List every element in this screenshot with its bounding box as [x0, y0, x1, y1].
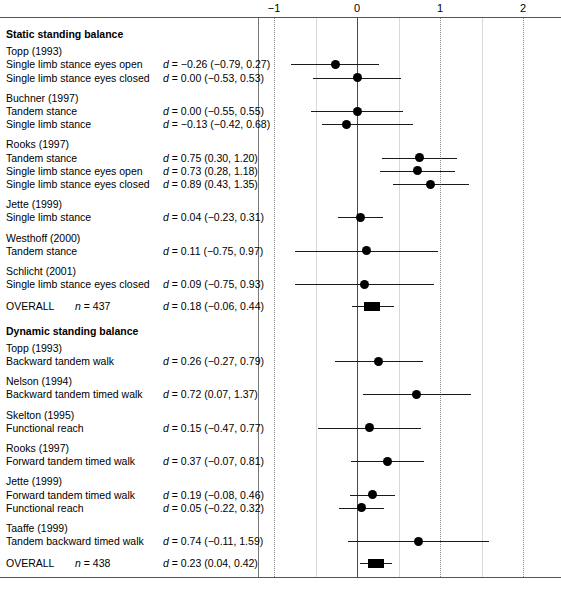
overall-effect-marker [368, 559, 384, 568]
effect-size-text: d = 0.11 (−0.75, 0.97) [163, 245, 263, 257]
stat-symbol: d [163, 165, 169, 177]
outcome-label: Functional reach [6, 422, 84, 434]
effect-size-text: d = 0.75 (0.30, 1.20) [163, 152, 258, 164]
stat-symbol: d [163, 535, 169, 547]
stat-symbol: d [163, 278, 169, 290]
effect-size-marker [368, 490, 377, 499]
bottom-rule [0, 577, 561, 578]
axis-tick-label: 2 [508, 2, 538, 14]
forest-plot: −1012Static standing balanceTopp (1993)S… [0, 0, 561, 591]
effect-size-text: d = 0.19 (−0.08, 0.46) [163, 489, 264, 501]
effect-size-marker [331, 60, 340, 69]
stat-symbol: d [163, 489, 169, 501]
stat-symbol: d [163, 152, 169, 164]
study-citation: Nelson (1994) [6, 375, 72, 387]
stat-symbol: d [163, 72, 169, 84]
overall-effect-text: d = 0.18 (−0.06, 0.44) [163, 300, 264, 312]
axis-tick-label: 1 [425, 2, 455, 14]
effect-size-marker [365, 423, 374, 432]
effect-size-marker [357, 503, 366, 512]
effect-size-text: d = 0.05 (−0.22, 0.32) [163, 502, 264, 514]
outcome-label: Forward tandem timed walk [6, 489, 135, 501]
outcome-label: Single limb stance eyes open [6, 165, 143, 177]
overall-label: OVERALL [6, 300, 54, 312]
stat-symbol: d [163, 245, 169, 257]
effect-size-text: d = 0.04 (−0.23, 0.31) [163, 211, 264, 223]
gridline-minor [482, 18, 483, 577]
stat-symbol: d [163, 58, 169, 70]
outcome-label: Tandem stance [6, 245, 77, 257]
stat-symbol: d [163, 388, 169, 400]
stat-symbol: d [163, 502, 169, 514]
study-citation: Topp (1993) [6, 342, 62, 354]
outcome-label: Single limb stance eyes closed [6, 72, 150, 84]
overall-effect-marker [364, 302, 380, 311]
effect-size-marker [426, 180, 435, 189]
gridline-major [440, 18, 441, 577]
effect-size-text: d = 0.89 (0.43, 1.35) [163, 178, 258, 190]
study-citation: Rooks (1997) [6, 138, 69, 150]
effect-size-text: d = 0.00 (−0.53, 0.53) [163, 72, 264, 84]
effect-size-marker [415, 153, 424, 162]
effect-size-marker [374, 357, 383, 366]
effect-size-marker [353, 107, 362, 116]
zero-reference-line [357, 18, 358, 577]
outcome-label: Single limb stance eyes open [6, 58, 143, 70]
stat-symbol: d [163, 178, 169, 190]
stat-symbol: d [163, 105, 169, 117]
section-heading-1: Dynamic standing balance [6, 325, 138, 337]
overall-n: n = 438 [75, 557, 110, 569]
confidence-interval-line [322, 124, 413, 125]
effect-size-marker [383, 457, 392, 466]
effect-size-marker [356, 213, 365, 222]
effect-size-text: d = 0.74 (−0.11, 1.59) [163, 535, 263, 547]
effect-size-text: d = 0.09 (−0.75, 0.93) [163, 278, 264, 290]
gridline-minor [316, 18, 317, 577]
gridline-major [274, 18, 275, 577]
outcome-label: Tandem stance [6, 152, 77, 164]
overall-effect-text: d = 0.23 (0.04, 0.42) [163, 557, 258, 569]
effect-size-text: d = −0.13 (−0.42, 0.68) [163, 118, 270, 130]
study-citation: Buchner (1997) [6, 92, 78, 104]
study-citation: Topp (1993) [6, 45, 62, 57]
effect-size-text: d = 0.26 (−0.27, 0.79) [163, 355, 264, 367]
outcome-label: Tandem backward timed walk [6, 535, 144, 547]
stat-symbol: d [163, 455, 169, 467]
study-citation: Schlicht (2001) [6, 265, 76, 277]
study-citation: Jette (1999) [6, 198, 62, 210]
effect-size-marker [362, 246, 371, 255]
effect-size-marker [360, 280, 369, 289]
stat-symbol: d [163, 355, 169, 367]
effect-size-marker [412, 390, 421, 399]
stat-symbol: d [163, 211, 169, 223]
study-citation: Jette (1999) [6, 475, 62, 487]
outcome-label: Single limb stance [6, 211, 91, 223]
gridline-minor [399, 18, 400, 577]
stat-symbol: n [75, 300, 81, 312]
effect-size-marker [353, 73, 362, 82]
axis-tick-label: 0 [342, 2, 372, 14]
effect-size-text: d = 0.37 (−0.07, 0.81) [163, 455, 264, 467]
top-rule [0, 17, 561, 18]
outcome-label: Forward tandem timed walk [6, 455, 135, 467]
outcome-label: Single limb stance [6, 118, 91, 130]
effect-size-marker [414, 537, 423, 546]
stat-symbol: d [163, 557, 169, 569]
study-citation: Rooks (1997) [6, 442, 69, 454]
gridline-major [523, 18, 524, 577]
overall-label: OVERALL [6, 557, 54, 569]
section-heading-0: Static standing balance [6, 28, 123, 40]
effect-size-text: d = 0.00 (−0.55, 0.55) [163, 105, 264, 117]
effect-size-text: d = 0.73 (0.28, 1.18) [163, 165, 258, 177]
study-citation: Westhoff (2000) [6, 232, 80, 244]
outcome-label: Functional reach [6, 502, 84, 514]
outcome-label: Single limb stance eyes closed [6, 278, 150, 290]
effect-size-text: d = −0.26 (−0.79, 0.27) [163, 58, 270, 70]
effect-size-marker [342, 120, 351, 129]
outcome-label: Backward tandem walk [6, 355, 114, 367]
axis-tick-label: −1 [259, 2, 289, 14]
stat-symbol: n [75, 557, 81, 569]
study-citation: Taaffe (1999) [6, 522, 68, 534]
outcome-label: Single limb stance eyes closed [6, 178, 150, 190]
overall-n: n = 437 [75, 300, 110, 312]
